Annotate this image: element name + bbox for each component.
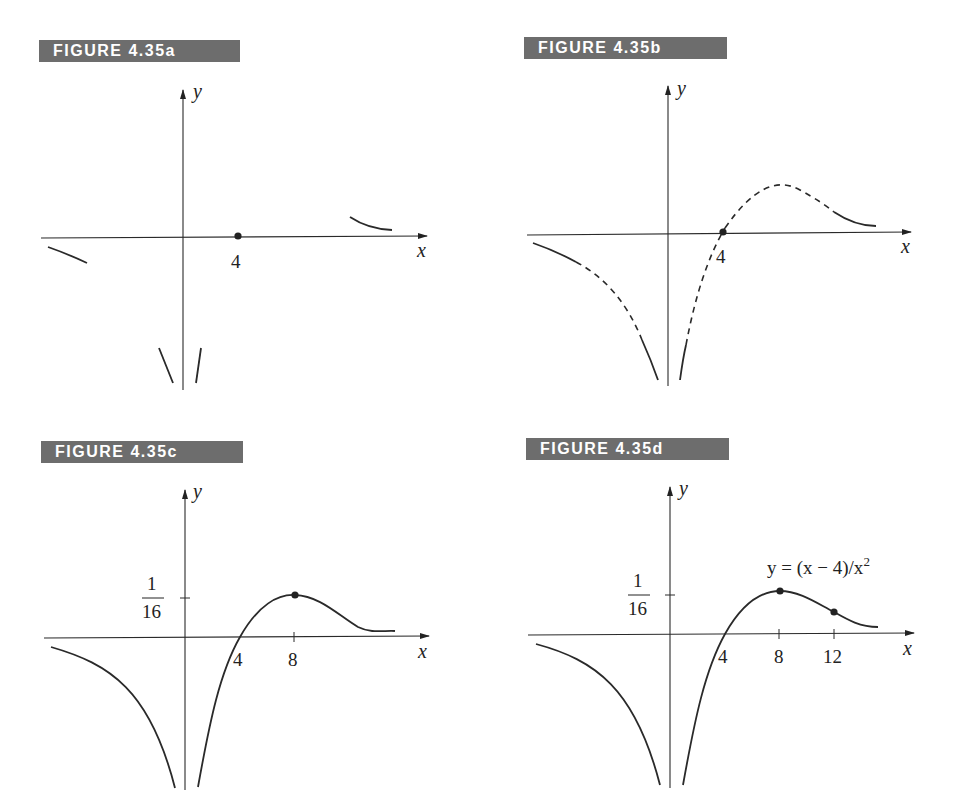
curve-right-solid-asymptote [680,345,686,380]
function-equation: y = (x − 4)/x2 [767,554,870,579]
tick-8: 8 [774,646,784,667]
figure-a [41,90,427,390]
y-tick-label-numerator: 1 [633,570,643,591]
y-axis-label: y [191,480,202,503]
curve-left-solid-asymptote [642,340,658,380]
curve-right-branch [683,591,878,785]
y-axis-label: y [677,477,688,500]
tick-4: 4 [233,649,243,670]
x-axis-label: x [416,239,426,261]
y-tick-label-numerator: 1 [147,573,157,594]
x-axis [528,633,914,635]
y-tick-label-denominator: 16 [628,598,647,619]
curve-asymptote-left [159,348,173,383]
x-axis-label: x [902,637,912,659]
x-intercept-dot [234,232,241,239]
figure-c [44,490,429,790]
figure-b [527,86,911,386]
y-tick-label-denominator: 16 [142,601,161,622]
curve-right-dashed-peak [725,185,834,228]
curve-left-solid-tail [533,243,576,262]
local-max-dot [291,591,298,598]
curve-left-tail [48,247,87,263]
curve-right-branch [198,595,395,787]
local-max-dot [776,587,783,594]
equation-exponent: 2 [863,554,870,569]
curve-left-dashed [576,262,642,340]
curve-right-solid-tail [834,212,876,226]
y-axis-label: y [191,80,202,103]
x-axis [527,232,911,235]
tick-12: 12 [823,646,842,667]
x-axis [41,236,427,238]
x-intercept-dot [719,228,726,235]
curve-asymptote-right [196,348,201,383]
tick-4: 4 [231,251,241,272]
inflection-point-dot [830,608,837,615]
equation-body: y = (x − 4)/x [767,557,864,579]
curve-left-branch [51,647,175,788]
x-axis-label: x [417,640,427,662]
figures-canvas: 4 x y 4 x y 1 16 4 8 x y [0,0,958,803]
figure-d [528,487,914,788]
tick-4: 4 [718,646,728,667]
curve-right-tail [350,217,392,230]
tick-8: 8 [288,649,298,670]
tick-4: 4 [716,246,726,267]
curve-left-branch [536,644,660,785]
x-axis-label: x [900,235,910,257]
y-axis-label: y [675,77,686,100]
x-axis [44,636,429,638]
